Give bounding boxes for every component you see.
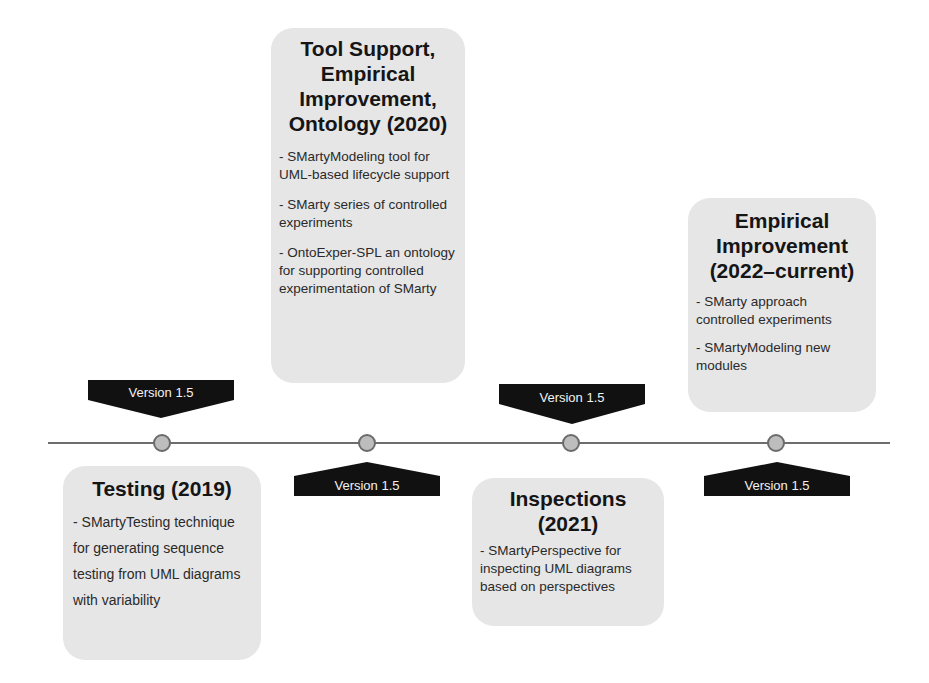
milestone-item: - SMarty approach controlled experiments <box>696 293 868 329</box>
milestone-title: Inspections (2021) <box>480 486 656 536</box>
milestone-item: - SMartyTesting technique for generating… <box>73 509 251 613</box>
milestone-card-2020: Tool Support, Empirical Improvement, Ont… <box>271 28 465 383</box>
milestone-card-2022: Empirical Improvement (2022–current) - S… <box>688 198 876 412</box>
milestone-title: Empirical Improvement (2022–current) <box>696 208 868 283</box>
timeline-node-2021 <box>562 434 580 452</box>
milestone-title: Tool Support, Empirical Improvement, Ont… <box>279 36 457 136</box>
version-tag-label: Version 1.5 <box>128 385 193 400</box>
milestone-card-2021: Inspections (2021) - SMartyPerspective f… <box>472 478 664 626</box>
milestone-title: Testing (2019) <box>73 476 251 501</box>
version-tag-2022: Version 1.5 <box>704 462 850 496</box>
milestone-item: - SMartyPerspective for inspecting UML d… <box>480 542 656 596</box>
timeline-node-2020 <box>358 434 376 452</box>
milestone-item: - OntoExper-SPL an ontology for supporti… <box>279 244 457 298</box>
milestone-card-2019: Testing (2019) - SMartyTesting technique… <box>63 466 261 660</box>
version-tag-label: Version 1.5 <box>334 478 399 493</box>
timeline-node-2022 <box>767 434 785 452</box>
version-tag-label: Version 1.5 <box>744 478 809 493</box>
timeline-axis <box>48 442 890 444</box>
milestone-item: - SMartyModeling new modules <box>696 339 868 375</box>
version-tag-2019: Version 1.5 <box>88 380 234 418</box>
timeline-node-2019 <box>153 434 171 452</box>
version-tag-2021: Version 1.5 <box>499 384 645 424</box>
milestone-item: - SMarty series of controlled experiment… <box>279 196 457 232</box>
version-tag-2020: Version 1.5 <box>294 462 440 496</box>
milestone-item: - SMartyModeling tool for UML-based life… <box>279 148 457 184</box>
version-tag-label: Version 1.5 <box>539 390 604 405</box>
